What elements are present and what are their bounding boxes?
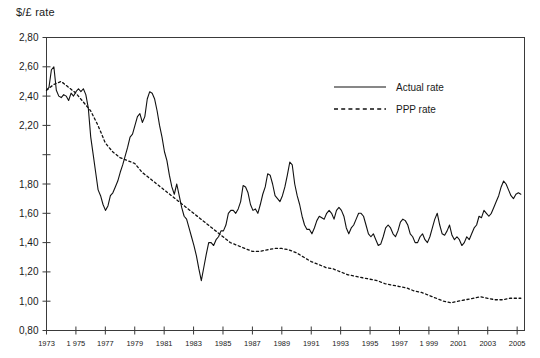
x-axis-tick-label: 1985 bbox=[215, 339, 232, 348]
x-axis-tick-label: 1989 bbox=[273, 339, 290, 348]
y-axis-tick-label: 2,60 bbox=[19, 61, 39, 72]
chart-container: $/£ rate 2,802,602,402,201,801,601,401,2… bbox=[0, 0, 540, 358]
x-axis-tick-label: 1977 bbox=[97, 339, 114, 348]
x-axis-tick-label: 1 999 bbox=[420, 339, 439, 348]
x-axis-tick-label: 1993 bbox=[332, 339, 349, 348]
x-axis-tick-group: 19731 9751977197919811983198519871989199… bbox=[38, 327, 525, 348]
y-axis-tick-label: 2,20 bbox=[19, 120, 39, 131]
x-axis-tick-label: 1991 bbox=[303, 339, 320, 348]
y-axis-tick-label: 0,80 bbox=[19, 325, 39, 336]
x-axis-tick-label: 2003 bbox=[479, 339, 496, 348]
x-axis-tick-label: 1995 bbox=[362, 339, 379, 348]
y-axis-tick-label: 1,20 bbox=[19, 266, 39, 277]
y-axis-tick-label: 2,80 bbox=[19, 32, 39, 43]
series-line-actual-rate bbox=[47, 67, 521, 281]
chart-plot-area: 2,802,602,402,201,801,601,401,201,000,80… bbox=[0, 0, 540, 358]
y-axis-tick-label: 1,40 bbox=[19, 237, 39, 248]
x-axis-tick-label: 1979 bbox=[126, 339, 143, 348]
x-axis-tick-label: 1987 bbox=[244, 339, 261, 348]
x-axis-tick-label: 1997 bbox=[391, 339, 408, 348]
legend-label-actual-rate: Actual rate bbox=[396, 82, 444, 93]
x-axis-tick-label: 1 975 bbox=[67, 339, 86, 348]
y-axis-tick-label: 1,00 bbox=[19, 296, 39, 307]
x-axis-tick-label: 2001 bbox=[450, 339, 467, 348]
y-axis-tick-label: 1,60 bbox=[19, 208, 39, 219]
x-axis-tick-label: 1981 bbox=[156, 339, 173, 348]
chart-legend: Actual rate PPP rate bbox=[334, 82, 444, 115]
x-axis-tick-label: 2005 bbox=[509, 339, 526, 348]
y-axis-tick-label: 1,80 bbox=[19, 179, 39, 190]
y-axis-tick-group: 2,802,602,402,201,801,601,401,201,000,80 bbox=[19, 32, 50, 336]
y-axis-tick-label: 2,40 bbox=[19, 91, 39, 102]
legend-label-ppp-rate: PPP rate bbox=[396, 104, 436, 115]
x-axis-tick-label: 1983 bbox=[185, 339, 202, 348]
x-axis-tick-label: 1973 bbox=[38, 339, 55, 348]
